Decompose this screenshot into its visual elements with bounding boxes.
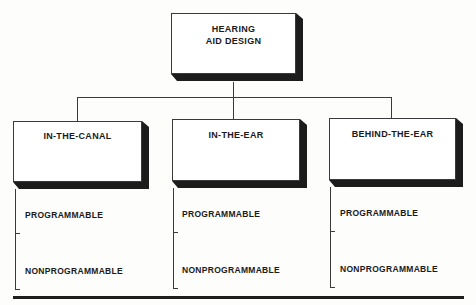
box-shadow [19,182,149,189]
category-title: BEHIND-THE-EAR [330,128,455,140]
connector-to-behind-the-ear [391,97,392,118]
option-nonprogrammable: NONPROGRAMMABLE [340,264,438,274]
box-bevel [172,181,178,188]
box-shadow [300,125,307,188]
bracket-tick [330,287,335,288]
bracket-tick [330,231,335,232]
box-bevel [329,180,335,187]
box-shadow [335,180,463,187]
connector-to-in-the-canal [77,97,78,121]
bracket-tick [15,233,20,234]
box-bevel [171,74,177,81]
box-shadow [456,124,463,187]
diagram-canvas: HEARING AID DESIGN IN-THE-CANAL PROGRAMM… [0,0,476,305]
box-shadow [142,127,149,189]
bracket-tick [173,232,178,233]
box-shadow [178,181,307,188]
category-node-behind-the-ear: BEHIND-THE-EAR [329,118,456,180]
option-nonprogrammable: NONPROGRAMMABLE [25,266,123,276]
option-programmable: PROGRAMMABLE [340,208,418,218]
box-bevel [142,121,149,127]
bracket-tick [15,289,20,290]
connector-to-in-the-ear [233,97,234,119]
box-bevel [300,119,307,125]
option-nonprogrammable: NONPROGRAMMABLE [182,265,280,275]
category-title: IN-THE-EAR [173,129,299,141]
bracket-tick [173,288,178,289]
box-bevel [13,182,19,189]
root-title-line2: AID DESIGN [172,35,295,47]
bottom-divider-rule [13,296,464,299]
box-bevel [456,118,463,124]
bracket-behind-the-ear [330,187,331,288]
bracket-in-the-canal [15,189,16,290]
category-node-in-the-ear: IN-THE-EAR [172,119,300,181]
box-shadow [296,19,303,81]
box-shadow [177,74,303,81]
box-bevel [296,13,303,19]
root-node-hearing-aid-design: HEARING AID DESIGN [171,13,296,74]
root-title-line1: HEARING [172,23,295,35]
bracket-in-the-ear [173,188,174,289]
option-programmable: PROGRAMMABLE [25,210,103,220]
category-node-in-the-canal: IN-THE-CANAL [13,121,142,182]
option-programmable: PROGRAMMABLE [182,209,260,219]
connector-root-down [233,82,234,98]
connector-horizontal [77,97,392,98]
category-title: IN-THE-CANAL [14,130,141,142]
